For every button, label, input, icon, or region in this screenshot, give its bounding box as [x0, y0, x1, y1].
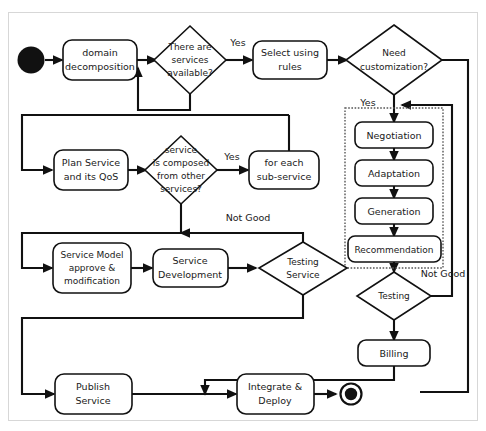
node-service-development-line1: Service [172, 255, 207, 266]
decision-services-available[interactable]: There are services available? [154, 26, 226, 94]
node-integrate-deploy[interactable]: Integrate & Deploy [237, 374, 314, 414]
node-service-model-approve-line3: modification [64, 276, 120, 286]
node-billing-label: Billing [379, 348, 408, 359]
end-node [341, 384, 362, 405]
node-recommendation[interactable]: Recommendation [348, 236, 441, 262]
node-for-each-sub-service-line2: sub-service [257, 171, 312, 182]
decision-need-customization-line2: customization? [360, 62, 428, 72]
node-negotiation-label: Negotiation [366, 130, 421, 141]
node-service-model-approve[interactable]: Service Model approve & modification [53, 243, 131, 293]
node-select-using-rules[interactable]: Select using rules [253, 41, 327, 79]
start-node [18, 47, 45, 74]
edge-label-yes-services-available: Yes [229, 37, 245, 48]
decision-testing-service[interactable]: Testing Service [259, 242, 347, 295]
decision-services-available-line1: There are [167, 42, 212, 52]
decision-testing-label: Testing [377, 291, 410, 301]
decision-need-customization[interactable]: Need customization? [346, 25, 442, 95]
node-plan-service-qos[interactable]: Plan Service and its QoS [54, 150, 128, 190]
node-publish-service-line2: Service [75, 395, 110, 406]
decision-services-available-line2: services [172, 55, 209, 65]
edge-label-not-good-testing: Not Good [421, 268, 466, 279]
node-domain-decomposition[interactable]: domain decomposition [63, 40, 137, 80]
node-select-using-rules-line2: rules [278, 61, 301, 72]
node-generation-label: Generation [368, 206, 421, 217]
decision-testing-service-line2: Service [286, 270, 320, 280]
node-adaptation[interactable]: Adaptation [355, 160, 433, 186]
node-integrate-deploy-line1: Integrate & [248, 381, 303, 392]
node-service-development-line2: Development [158, 269, 222, 280]
node-billing[interactable]: Billing [358, 340, 430, 366]
decision-testing-service-line1: Testing [286, 257, 319, 267]
decision-service-composed-line2: is composed [153, 158, 209, 168]
decision-testing[interactable]: Testing [357, 272, 431, 320]
decision-services-available-line3: available? [167, 68, 213, 78]
node-domain-decomposition-line2: decomposition [65, 61, 135, 72]
node-select-using-rules-line1: Select using [261, 47, 319, 58]
decision-service-composed-line4: services? [160, 184, 202, 194]
flowchart: select using rules --> back into domain … [0, 0, 486, 431]
node-publish-service[interactable]: Publish Service [55, 374, 132, 414]
node-publish-service-line1: Publish [76, 381, 110, 392]
node-for-each-sub-service-line1: for each [265, 157, 304, 168]
node-service-development[interactable]: Service Development [153, 249, 228, 287]
node-service-model-approve-line2: approve & [69, 263, 116, 273]
node-for-each-sub-service[interactable]: for each sub-service [249, 151, 319, 189]
node-plan-service-qos-line2: and its QoS [64, 171, 119, 182]
edge-label-yes-need-customization: Yes [359, 97, 375, 108]
edge-label-not-good-service-composed: Not Good [226, 212, 271, 223]
decision-service-composed-line3: from other [157, 171, 205, 181]
decision-need-customization-line1: Need [382, 48, 406, 58]
node-plan-service-qos-line1: Plan Service [62, 157, 120, 168]
edge-label-yes-service-composed: Yes [223, 151, 239, 162]
node-integrate-deploy-line2: Deploy [258, 395, 292, 406]
node-recommendation-label: Recommendation [354, 245, 433, 255]
decision-service-composed[interactable]: service is composed from other services? [145, 136, 217, 204]
node-domain-decomposition-line1: domain [82, 47, 118, 58]
node-service-model-approve-line1: Service Model [60, 250, 123, 260]
edge-testing-service-not-good-to-service-model [181, 233, 303, 243]
decision-service-composed-line1: service [165, 145, 198, 155]
node-negotiation[interactable]: Negotiation [355, 122, 433, 148]
node-generation[interactable]: Generation [355, 198, 433, 224]
diagram-canvas: select using rules --> back into domain … [0, 0, 486, 431]
node-adaptation-label: Adaptation [368, 168, 420, 179]
